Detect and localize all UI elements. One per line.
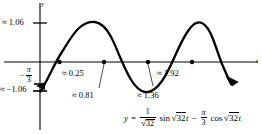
math-graph-figure: y t ≈ 1.06 ≈ −1.06 − π 3 ≈ 0.25 ≈ 0.81 ≈…: [0, 0, 262, 134]
curve-arrowhead: [226, 76, 238, 86]
coefficient-radicand: 32: [146, 119, 155, 128]
sin-radical: √ 32: [172, 112, 186, 123]
zero-label-3: ≈ 1.36: [137, 91, 159, 100]
sin-radicand: 32: [176, 112, 186, 123]
pi-numerator: π: [201, 109, 207, 117]
t-axis-label: t: [256, 58, 258, 65]
fraction-denominator: 3: [27, 76, 31, 84]
coefficient-numerator: 1: [145, 108, 151, 116]
equation-lhs: y: [124, 113, 128, 123]
initial-minus-sign: −: [20, 71, 25, 80]
zero-label-4: ≈ 1.92: [157, 69, 179, 78]
cos-function-name: cos: [211, 113, 223, 123]
sin-variable: t: [186, 113, 189, 123]
equation-equals: =: [131, 113, 136, 123]
coefficient-fraction: 1 √ 32: [140, 108, 155, 128]
zero-label-1: ≈ 0.25: [62, 69, 84, 78]
zero-marker-4: [190, 60, 194, 64]
cos-radicand: 32: [229, 112, 239, 123]
sine-curve: [41, 22, 232, 92]
zero-marker-3: [146, 60, 150, 64]
y-min-label: ≈ −1.06: [0, 85, 26, 94]
equation-expression: y = 1 √ 32 sin √ 32 t − π 3 cos √ 32 t: [124, 108, 241, 128]
pi-over-three-fraction: π 3: [26, 66, 32, 84]
zero-marker-1: [57, 60, 61, 64]
equation-minus: −: [192, 113, 197, 123]
leader-line-zero-3: [148, 64, 153, 86]
pi-over-three-term: π 3: [201, 109, 207, 128]
coefficient-radical: √ 32: [140, 119, 155, 128]
leader-line-zero-2: [99, 64, 104, 88]
sin-function-name: sin: [160, 113, 171, 123]
y-axis-label: y: [41, 1, 44, 8]
cos-variable: t: [239, 113, 242, 123]
cos-radical: √ 32: [224, 112, 238, 123]
fraction-numerator: π: [26, 66, 32, 74]
zero-label-2: ≈ 0.81: [72, 91, 94, 100]
y-max-label: ≈ 1.06: [2, 18, 24, 27]
initial-value-label: − π 3: [20, 66, 32, 84]
pi-denominator: 3: [201, 119, 207, 127]
zero-marker-2: [102, 60, 106, 64]
